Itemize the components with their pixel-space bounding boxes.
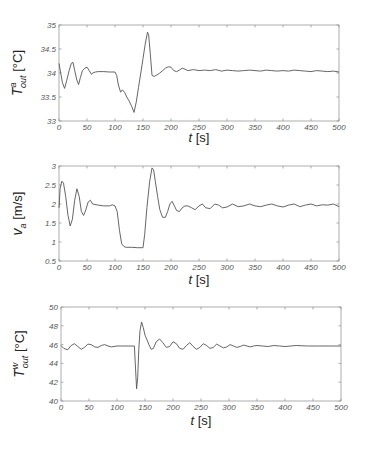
- x-tick-label: 200: [163, 263, 178, 272]
- chart-panel-air-outlet-temperature: 0501001502002503003504004505003333.53434…: [8, 21, 346, 145]
- y-tick-label: 50: [49, 303, 58, 312]
- y-tick-label: 34.5: [40, 45, 56, 54]
- figure-canvas: 0501001502002503003504004505003333.53434…: [0, 0, 369, 451]
- data-series-line: [59, 32, 339, 112]
- x-tick-label: 200: [163, 123, 178, 132]
- x-tick-label: 450: [304, 263, 318, 272]
- y-tick-label: 42: [49, 378, 58, 387]
- x-axis-label: t [s]: [189, 130, 210, 145]
- x-tick-label: 0: [57, 123, 62, 132]
- x-tick-label: 0: [57, 263, 62, 272]
- x-tick-label: 300: [222, 403, 236, 412]
- x-tick-label: 150: [136, 263, 150, 272]
- y-tick-label: 33: [47, 117, 56, 126]
- data-series-line: [61, 322, 341, 389]
- y-tick-label: 48: [49, 322, 58, 331]
- y-axis-label: Twout [°C]: [10, 330, 30, 378]
- chart-panel-air-velocity: 0501001502002503003504004505000.511.522.…: [9, 162, 346, 287]
- x-tick-label: 0: [59, 403, 64, 412]
- x-tick-label: 350: [248, 123, 262, 132]
- y-tick-label: 40: [49, 397, 58, 406]
- y-tick-label: 34: [47, 69, 56, 78]
- x-axis-label: t [s]: [191, 413, 212, 428]
- y-tick-label: 1.5: [45, 219, 57, 228]
- x-axis-label: t [s]: [189, 272, 210, 287]
- x-tick-label: 50: [83, 263, 92, 272]
- x-tick-label: 100: [108, 123, 122, 132]
- x-tick-label: 50: [85, 403, 94, 412]
- y-tick-label: 2.5: [44, 181, 57, 190]
- x-tick-label: 100: [108, 263, 122, 272]
- x-tick-label: 500: [332, 123, 346, 132]
- x-tick-label: 150: [136, 123, 150, 132]
- x-tick-label: 50: [83, 123, 92, 132]
- x-tick-label: 250: [191, 263, 206, 272]
- x-tick-label: 150: [138, 403, 152, 412]
- y-axis-label: Taout [°C]: [8, 50, 28, 96]
- y-tick-label: 46: [49, 341, 58, 350]
- data-series-line: [59, 168, 339, 248]
- x-tick-label: 450: [304, 123, 318, 132]
- figure: 0501001502002503003504004505003333.53434…: [0, 0, 369, 451]
- x-tick-label: 350: [248, 263, 262, 272]
- x-tick-label: 350: [250, 403, 264, 412]
- y-tick-label: 35: [47, 21, 56, 30]
- x-tick-label: 450: [306, 403, 320, 412]
- x-tick-label: 100: [110, 403, 124, 412]
- plot-frame: [59, 166, 339, 261]
- y-tick-label: 0.5: [45, 257, 57, 266]
- x-tick-label: 500: [334, 403, 348, 412]
- plot-frame: [61, 307, 341, 401]
- x-tick-label: 200: [165, 403, 180, 412]
- x-tick-label: 400: [278, 403, 292, 412]
- x-tick-label: 400: [276, 263, 290, 272]
- y-tick-label: 2: [51, 200, 57, 209]
- plot-frame: [59, 25, 339, 121]
- y-tick-label: 44: [49, 359, 58, 368]
- y-tick-label: 1: [52, 238, 56, 247]
- y-tick-label: 3: [52, 162, 57, 171]
- chart-panel-water-outlet-temperature: 0501001502002503003504004505004042444648…: [10, 303, 348, 428]
- x-tick-label: 300: [220, 123, 234, 132]
- x-tick-label: 250: [193, 403, 208, 412]
- x-tick-label: 400: [276, 123, 290, 132]
- y-axis-label: va [m/s]: [9, 192, 28, 236]
- x-tick-label: 500: [332, 263, 346, 272]
- y-tick-label: 33.5: [40, 93, 56, 102]
- x-tick-label: 300: [220, 263, 234, 272]
